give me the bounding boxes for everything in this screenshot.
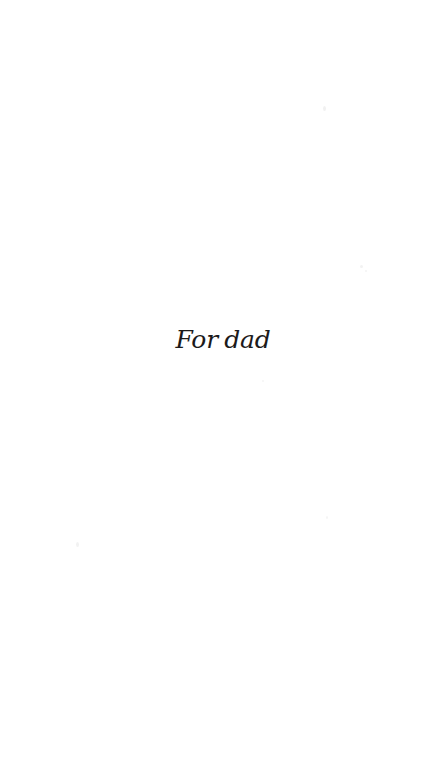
dedication-block: For dad [0,0,446,352]
document-page: For dad [0,0,446,768]
dedication-text: For dad [176,327,271,352]
scan-speck [76,542,79,547]
scan-speck [326,516,328,519]
scan-speck [262,380,264,382]
